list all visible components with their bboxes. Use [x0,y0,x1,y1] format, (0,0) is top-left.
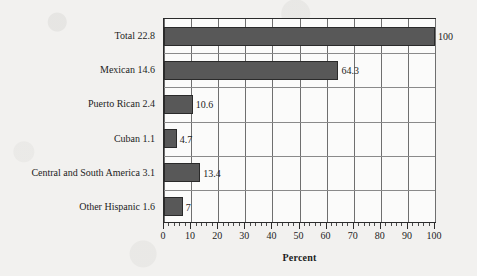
xtick-minor-54 [309,223,310,226]
gridline-horizontal-4 [164,156,435,157]
y-axis-label-central-south-america: Central and South America 3.1 [31,166,155,177]
chart-figure: Total 22.8 Mexican 14.6 Puerto Rican 2.4… [0,0,477,276]
xtick-label-40: 40 [266,230,276,241]
xtick-minor-88 [401,223,402,226]
xtick-minor-36 [261,223,262,226]
bar-total[interactable] [164,27,435,46]
xtick-minor-44 [282,223,283,226]
xtick-major-50 [299,223,300,229]
plot-area: 100 64.3 10.6 4.7 13.4 7 [163,18,436,223]
xtick-major-20 [217,223,218,229]
data-label-other-hispanic: 7 [186,201,191,212]
xtick-minor-94 [418,223,419,226]
xtick-major-70 [353,223,354,229]
gridline-horizontal-3 [164,122,435,123]
xtick-minor-56 [315,223,316,226]
bar-central-south-america[interactable] [164,163,200,182]
xtick-label-70: 70 [348,230,358,241]
y-axis-label-other-hispanic: Other Hispanic 1.6 [79,200,155,211]
xtick-minor-38 [266,223,267,226]
xtick-minor-34 [255,223,256,226]
xtick-minor-4 [174,223,175,226]
xtick-label-0: 0 [161,230,166,241]
y-axis-label-cuban: Cuban 1.1 [114,132,155,143]
xtick-minor-58 [320,223,321,226]
xtick-minor-32 [250,223,251,226]
xtick-label-100: 100 [427,230,442,241]
xtick-minor-24 [228,223,229,226]
xtick-minor-8 [185,223,186,226]
xtick-minor-84 [391,223,392,226]
xtick-minor-76 [369,223,370,226]
bar-other-hispanic[interactable] [164,197,183,216]
xtick-minor-12 [196,223,197,226]
xtick-minor-98 [429,223,430,226]
gridline-vertical-70 [354,19,355,222]
xtick-minor-52 [304,223,305,226]
data-label-cuban: 4.7 [180,133,193,144]
xtick-minor-74 [364,223,365,226]
data-label-puerto-rican: 10.6 [196,99,214,110]
xtick-label-50: 50 [294,230,304,241]
xtick-minor-46 [288,223,289,226]
xtick-major-60 [326,223,327,229]
xtick-minor-62 [331,223,332,226]
gridline-vertical-80 [381,19,382,222]
gridline-vertical-100 [435,19,436,222]
y-axis-category-labels: Total 22.8 Mexican 14.6 Puerto Rican 2.4… [0,18,159,223]
xtick-minor-2 [168,223,169,226]
xtick-major-10 [190,223,191,229]
y-axis-label-puerto-rican: Puerto Rican 2.4 [88,98,155,109]
gridline-vertical-50 [300,19,301,222]
xtick-label-80: 80 [375,230,385,241]
x-axis-title: Percent [163,252,436,263]
xtick-minor-72 [358,223,359,226]
gridline-vertical-20 [218,19,219,222]
y-axis-label-mexican: Mexican 14.6 [100,64,155,75]
xtick-minor-66 [342,223,343,226]
xtick-major-30 [244,223,245,229]
xtick-major-80 [380,223,381,229]
xtick-minor-6 [179,223,180,226]
xtick-minor-16 [206,223,207,226]
xtick-label-10: 10 [185,230,195,241]
xtick-label-60: 60 [321,230,331,241]
xtick-minor-18 [212,223,213,226]
x-axis: 0 10 20 30 40 50 60 70 80 90 100 [163,223,436,233]
xtick-minor-68 [347,223,348,226]
xtick-minor-92 [412,223,413,226]
bar-puerto-rican[interactable] [164,95,193,114]
xtick-minor-28 [239,223,240,226]
gridline-vertical-90 [408,19,409,222]
xtick-minor-14 [201,223,202,226]
xtick-minor-64 [336,223,337,226]
xtick-major-90 [407,223,408,229]
data-label-mexican: 64.3 [342,65,360,76]
xtick-major-0 [163,223,164,229]
xtick-minor-78 [374,223,375,226]
xtick-minor-42 [277,223,278,226]
gridline-horizontal-5 [164,190,435,191]
gridline-vertical-30 [245,19,246,222]
bar-mexican[interactable] [164,61,338,80]
xtick-major-100 [434,223,435,229]
xtick-minor-26 [233,223,234,226]
data-label-total: 100 [438,31,453,42]
gridline-horizontal-1 [164,53,435,54]
xtick-label-30: 30 [239,230,249,241]
data-label-central-south-america: 13.4 [203,167,221,178]
xtick-major-40 [271,223,272,229]
xtick-minor-48 [293,223,294,226]
gridline-horizontal-2 [164,87,435,88]
xtick-minor-86 [396,223,397,226]
xtick-minor-82 [385,223,386,226]
y-axis-label-total: Total 22.8 [115,30,155,41]
xtick-minor-96 [423,223,424,226]
gridline-vertical-40 [272,19,273,222]
xtick-minor-22 [223,223,224,226]
gridline-vertical-60 [327,19,328,222]
xtick-label-20: 20 [212,230,222,241]
gridline-vertical-10 [191,19,192,222]
gridline-vertical-0 [164,19,165,222]
bar-cuban[interactable] [164,129,177,148]
